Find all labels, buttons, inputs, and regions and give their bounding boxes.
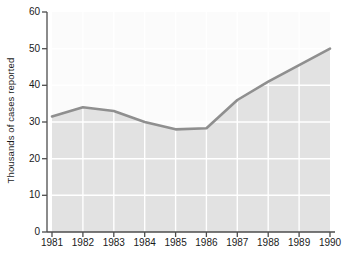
x-tick-label-1990: 1990 xyxy=(310,238,349,248)
y-axis-ticks xyxy=(42,12,47,232)
line-chart: Thousands of cases reported 60 50 40 30 … xyxy=(0,0,349,267)
chart-canvas xyxy=(0,0,349,267)
